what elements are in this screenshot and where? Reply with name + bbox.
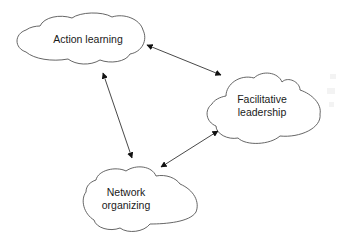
- label-line: Network: [88, 186, 164, 199]
- label-network-organizing: Network organizing: [88, 186, 164, 211]
- arrow-facilitative-leadership-network-organizing: [161, 131, 218, 167]
- arrow-action-learning-facilitative-leadership: [147, 45, 221, 75]
- label-action-learning: Action learning: [40, 33, 136, 46]
- label-line: organizing: [88, 199, 164, 212]
- label-line: Facilitative: [222, 93, 302, 106]
- label-line: Action learning: [40, 33, 136, 46]
- scan-artifact: [327, 88, 335, 94]
- scan-artifact: [329, 102, 334, 107]
- arrow-action-learning-network-organizing: [103, 73, 132, 158]
- label-line: leadership: [222, 106, 302, 119]
- label-facilitative-leadership: Facilitative leadership: [222, 93, 302, 118]
- scan-artifact: [330, 74, 336, 79]
